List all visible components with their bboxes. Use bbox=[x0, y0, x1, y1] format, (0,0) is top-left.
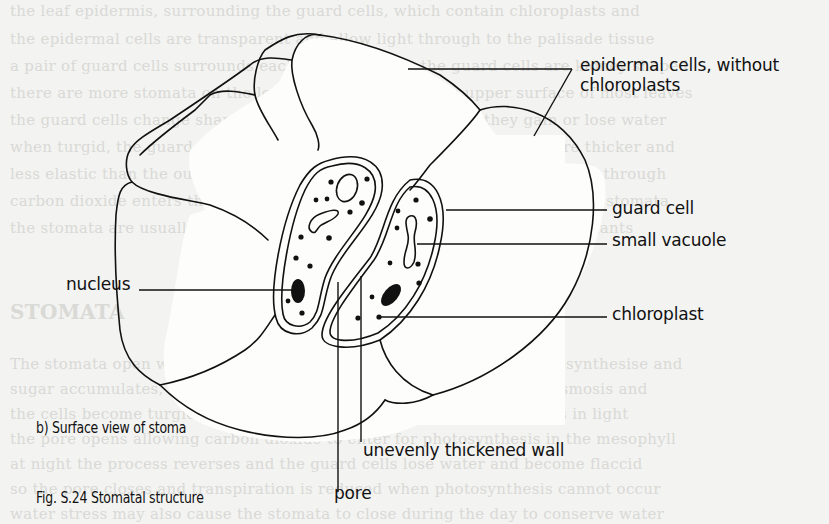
textbook-page: the leaf epidermis, surrounding the guar… bbox=[0, 0, 829, 524]
label-chloroplast: chloroplast bbox=[612, 305, 704, 324]
label-epidermal-cells-line2: chloroplasts bbox=[580, 76, 680, 95]
label-nucleus: nucleus bbox=[66, 275, 130, 294]
label-epidermal-cells: epidermal cells, without bbox=[580, 56, 779, 75]
figure-caption: Fig. S.24 Stomatal structure bbox=[36, 488, 204, 507]
label-small-vacuole: small vacuole bbox=[612, 231, 726, 250]
label-guard-cell: guard cell bbox=[612, 199, 694, 218]
figure-subtitle: b) Surface view of stoma bbox=[36, 418, 186, 437]
leader-epidermal bbox=[534, 69, 572, 136]
nucleus-left bbox=[291, 279, 305, 303]
label-pore: pore bbox=[334, 484, 371, 503]
label-unevenly-thickened-wall: unevenly thickened wall bbox=[363, 441, 564, 460]
